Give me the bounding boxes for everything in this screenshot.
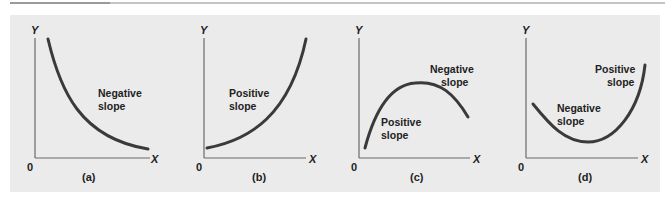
annotation-positive-slope-2: slope (381, 129, 409, 141)
origin-label: 0 (518, 161, 524, 173)
caption-a: (a) (82, 171, 96, 183)
origin-label: 0 (351, 161, 357, 173)
x-axis-label: X (150, 153, 159, 165)
y-axis-label: Y (31, 24, 40, 36)
annotation-positive-slope: Positive (229, 87, 269, 99)
annotation-negative-slope-2: slope (441, 76, 469, 88)
caption-d: (d) (578, 171, 592, 183)
caption-c: (c) (410, 171, 424, 183)
annotation-negative-slope-2: slope (557, 115, 585, 127)
origin-label: 0 (196, 161, 202, 173)
panel-a: Y X 0 Negative slope (a) (27, 24, 159, 183)
x-axis-label: X (472, 153, 481, 165)
annotation-positive-slope: Positive (595, 63, 635, 75)
caption-b: (b) (252, 171, 266, 183)
annotation-positive-slope: Positive (381, 116, 421, 128)
panel-c: Y X 0 Negative slope Positive slope (c) (351, 24, 481, 183)
annotation-negative-slope: Negative (98, 87, 142, 99)
annotation-positive-slope-2: slope (607, 76, 635, 88)
annotation-positive-slope-2: slope (229, 100, 257, 112)
y-axis-label: Y (355, 24, 364, 36)
annotation-negative-slope-2: slope (98, 100, 126, 112)
annotation-negative-slope: Negative (430, 63, 474, 75)
x-axis-label: X (308, 153, 317, 165)
y-axis-label: Y (522, 24, 531, 36)
y-axis-label: Y (200, 24, 209, 36)
panel-d: Y X 0 Positive slope Negative slope (d) (518, 24, 649, 183)
origin-label: 0 (27, 161, 33, 173)
slope-figure: Y X 0 Negative slope (a) Y X 0 Positive … (0, 0, 670, 201)
x-axis-label: X (640, 153, 649, 165)
panel-b: Y X 0 Positive slope (b) (196, 24, 317, 183)
annotation-negative-slope: Negative (557, 102, 601, 114)
